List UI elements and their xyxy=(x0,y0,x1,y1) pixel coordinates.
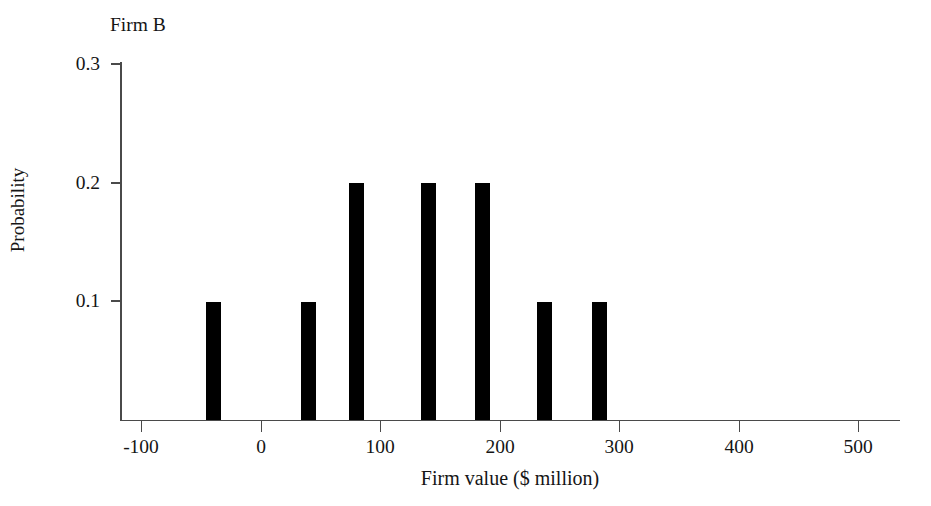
x-tick-label: -100 xyxy=(96,436,186,458)
x-tick-label: 100 xyxy=(335,436,425,458)
x-tick-label: 300 xyxy=(574,436,664,458)
x-tick-mark xyxy=(380,421,381,432)
bar xyxy=(206,302,221,421)
bars-group xyxy=(0,0,931,420)
x-tick-mark xyxy=(739,421,740,432)
x-tick-label: 500 xyxy=(813,436,903,458)
x-tick-mark xyxy=(858,421,859,432)
x-tick-mark xyxy=(141,421,142,432)
plot-area: Firm B Probability 0.3 0.2 0.1 -100 0 xyxy=(0,0,931,506)
bar xyxy=(421,183,436,420)
x-tick-mark xyxy=(261,421,262,432)
x-tick-label: 0 xyxy=(216,436,306,458)
x-tick-label: 200 xyxy=(455,436,545,458)
x-tick-mark xyxy=(500,421,501,432)
x-tick-label: 400 xyxy=(694,436,784,458)
x-tick-mark xyxy=(619,421,620,432)
bar xyxy=(301,302,316,421)
bar xyxy=(592,302,607,421)
x-axis-title: Firm value ($ million) xyxy=(120,466,900,490)
figure-firm-b-probability-distribution: Firm B Probability 0.3 0.2 0.1 -100 0 xyxy=(0,0,931,506)
bar xyxy=(349,183,364,420)
bar xyxy=(537,302,552,421)
bar xyxy=(475,183,490,420)
